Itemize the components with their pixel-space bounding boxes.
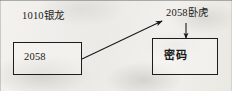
diagram-canvas: 1010银龙 2058卧虎 2058 密码 <box>0 0 232 91</box>
left-box: 2058 <box>13 42 82 75</box>
right-box: 密码 <box>152 38 218 75</box>
diagonal-arrow <box>82 21 162 59</box>
right-box-label: 密码 <box>164 50 187 61</box>
left-top-label: 1010银龙 <box>22 11 64 22</box>
right-top-label: 2058卧虎 <box>166 8 208 19</box>
left-box-label: 2058 <box>24 52 46 63</box>
